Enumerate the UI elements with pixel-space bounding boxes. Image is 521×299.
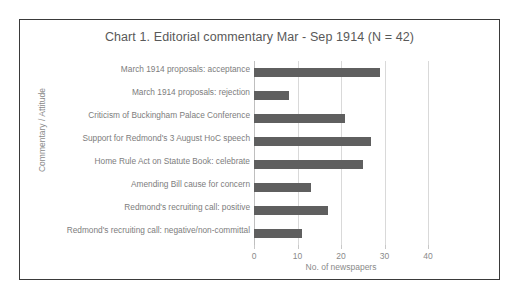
chart-screenshot: Chart 1. Editorial commentary Mar - Sep … xyxy=(0,0,521,299)
x-tick-40 xyxy=(428,245,429,249)
bar xyxy=(254,68,380,77)
bar xyxy=(254,114,345,123)
category-label: Amending Bill cause for concern xyxy=(131,179,250,189)
bar xyxy=(254,206,328,215)
x-tick-label-20: 20 xyxy=(336,251,345,261)
bar xyxy=(254,160,363,169)
bar xyxy=(254,229,302,238)
gridline-40 xyxy=(428,61,429,245)
x-tick-label-40: 40 xyxy=(423,251,432,261)
category-label: Criticism of Buckingham Palace Conferenc… xyxy=(88,110,250,120)
bar xyxy=(254,137,371,146)
x-tick-20 xyxy=(341,245,342,249)
bar-row: Amending Bill cause for concern xyxy=(254,176,428,199)
bar-row: March 1914 proposals: rejection xyxy=(254,84,428,107)
bar-row: March 1914 proposals: acceptance xyxy=(254,61,428,84)
x-tick-30 xyxy=(385,245,386,249)
y-axis-title: Commentary / Attitude xyxy=(37,70,47,190)
x-tick-label-10: 10 xyxy=(293,251,302,261)
x-tick-10 xyxy=(298,245,299,249)
chart-frame: Chart 1. Editorial commentary Mar - Sep … xyxy=(19,19,500,280)
category-label: Home Rule Act on Statute Book: celebrate xyxy=(95,156,250,166)
category-label: March 1914 proposals: acceptance xyxy=(121,64,250,74)
x-tick-label-0: 0 xyxy=(252,251,257,261)
category-label: Redmond's recruiting call: negative/non-… xyxy=(67,225,250,235)
chart-title: Chart 1. Editorial commentary Mar - Sep … xyxy=(20,30,499,44)
bar-row: Criticism of Buckingham Palace Conferenc… xyxy=(254,107,428,130)
bar-row: Home Rule Act on Statute Book: celebrate xyxy=(254,153,428,176)
plot-area: No. of newspapers 010203040March 1914 pr… xyxy=(254,61,428,245)
category-label: Redmond's recruiting call: positive xyxy=(124,202,250,212)
bar xyxy=(254,91,289,100)
x-tick-label-30: 30 xyxy=(380,251,389,261)
bar-row: Support for Redmond's 3 August HoC speec… xyxy=(254,130,428,153)
bar xyxy=(254,183,311,192)
category-label: Support for Redmond's 3 August HoC speec… xyxy=(82,133,250,143)
x-axis-title: No. of newspapers xyxy=(254,262,428,272)
category-label: March 1914 proposals: rejection xyxy=(132,87,250,97)
x-tick-0 xyxy=(254,245,255,249)
bar-row: Redmond's recruiting call: negative/non-… xyxy=(254,222,428,245)
bar-row: Redmond's recruiting call: positive xyxy=(254,199,428,222)
